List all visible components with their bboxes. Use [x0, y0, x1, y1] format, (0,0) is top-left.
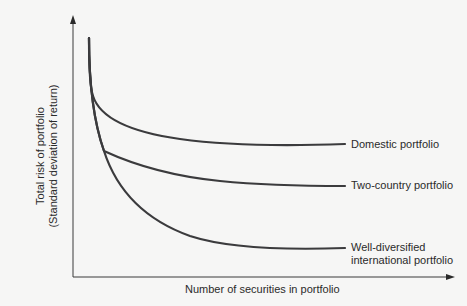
y-axis-label: Total risk of portfolio (Standard deviat…	[34, 66, 60, 246]
label-well-diversified-line2: international portfolio	[351, 254, 453, 267]
y-axis-arrow-icon	[70, 15, 76, 24]
x-axis-arrow-icon	[446, 274, 455, 280]
label-two-country-portfolio: Two-country portfolio	[351, 179, 453, 192]
curve-two-country-portfolio	[89, 38, 345, 186]
label-well-diversified-line1: Well-diversified	[351, 241, 453, 254]
label-domestic-portfolio: Domestic portfolio	[351, 138, 439, 151]
y-axis-label-line2: (Standard deviation of return)	[47, 66, 60, 246]
label-well-diversified-portfolio: Well-diversified international portfolio	[351, 241, 453, 267]
x-axis-label: Number of securities in portfolio	[185, 283, 340, 295]
y-axis-label-line1: Total risk of portfolio	[34, 66, 47, 246]
curve-domestic-portfolio	[89, 38, 345, 145]
